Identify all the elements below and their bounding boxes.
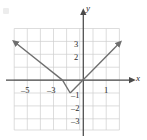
- x-tick-label-neg3: –3: [47, 86, 56, 95]
- y-tick-label-2: 2: [74, 53, 78, 62]
- y-tick-label-neg1: –1: [71, 91, 80, 100]
- y-tick-label-neg2: –2: [71, 104, 80, 113]
- x-tick-label-pos1: 1: [104, 86, 108, 95]
- axis-lines: [6, 14, 130, 136]
- y-tick-label-3: 3: [74, 40, 78, 49]
- grid-lines: [14, 29, 119, 131]
- graph-figure: y x –5 –3 1 3 2 –1 –2 –3: [0, 0, 147, 140]
- y-tick-label-neg3: –3: [71, 117, 80, 126]
- x-tick-label-neg5: –5: [21, 86, 30, 95]
- x-axis-label: x: [136, 74, 140, 83]
- absolute-value-curve: [17, 44, 119, 94]
- y-axis-label: y: [86, 4, 90, 13]
